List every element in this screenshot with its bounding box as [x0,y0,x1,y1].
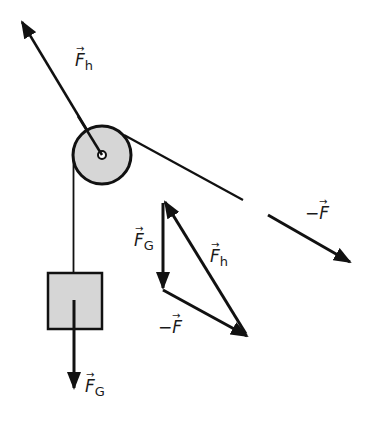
label-neg-f-right: →−F [305,205,329,222]
label-fh-triangle: →Fh [210,248,228,265]
label-fg-triangle: →FG [134,232,154,249]
rope-right [124,135,243,200]
label-fg-bottom: →FG [85,378,105,395]
label-neg-f-triangle: →−F [158,319,182,336]
label-fh-top: →Fh [75,52,93,69]
